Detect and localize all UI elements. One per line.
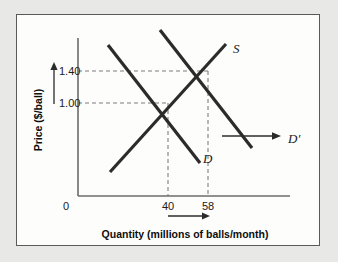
price-change-arrow-head	[50, 62, 57, 70]
demand-shifted-curve-label: D′	[287, 131, 300, 146]
y-tick-label-100: 1.00	[59, 97, 80, 109]
supply-demand-chart: S D D′ 1.40 1.00 40 58 0 Price ($/ball) …	[0, 0, 338, 262]
figure-container: S D D′ 1.40 1.00 40 58 0 Price ($/ball) …	[0, 0, 338, 262]
origin-label: 0	[63, 200, 69, 212]
quantity-change-arrow-head	[202, 212, 210, 219]
demand-curve-label: D	[202, 151, 213, 166]
demand-shift-arrow-head	[272, 132, 281, 140]
x-axis-title: Quantity (millions of balls/month)	[102, 228, 269, 240]
y-tick-label-140: 1.40	[59, 65, 80, 77]
supply-curve-label: S	[233, 41, 240, 56]
x-tick-label-58: 58	[202, 200, 214, 212]
y-axis-title: Price ($/ball)	[32, 89, 44, 151]
x-tick-label-40: 40	[162, 200, 174, 212]
